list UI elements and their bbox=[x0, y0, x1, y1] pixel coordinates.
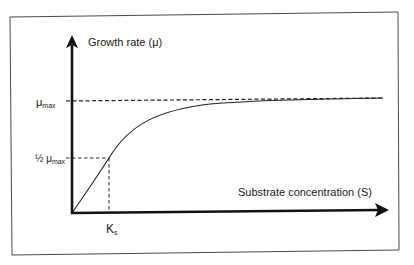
mu-max-subscript: max bbox=[42, 102, 55, 109]
x-axis-label: Substrate concentration (S) bbox=[238, 187, 372, 198]
half-prefix: ½ bbox=[35, 153, 46, 164]
mu-max-label: μmax bbox=[36, 97, 56, 109]
monod-diagram bbox=[0, 0, 414, 265]
half-mu-subscript: max bbox=[52, 158, 65, 165]
diagram-frame bbox=[10, 12, 399, 255]
y-axis-label: Growth rate (μ) bbox=[88, 37, 162, 48]
x-axis bbox=[71, 210, 380, 213]
ks-symbol: K bbox=[106, 222, 114, 236]
half-mu-max-label: ½ μmax bbox=[35, 154, 65, 165]
ks-label: Ks bbox=[106, 223, 118, 236]
ks-subscript: s bbox=[114, 229, 118, 236]
